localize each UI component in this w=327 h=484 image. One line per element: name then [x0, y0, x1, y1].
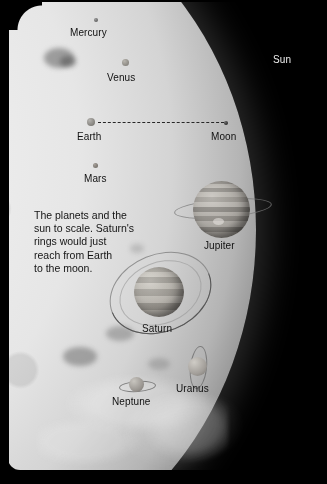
frame-border-top — [0, 0, 327, 2]
planet-mars — [93, 163, 98, 168]
caption-line: sun to scale. Saturn's — [34, 222, 166, 235]
label-sun: Sun — [273, 54, 291, 65]
caption-line: The planets and the — [34, 209, 166, 222]
figure-caption: The planets and the sun to scale. Saturn… — [34, 209, 166, 275]
frame-border-right — [320, 0, 327, 484]
image-frame: Mercury Venus Earth Moon Mars Jupiter Sa… — [8, 0, 320, 470]
caption-line: to the moon. — [34, 262, 166, 275]
label-earth: Earth — [77, 131, 101, 142]
caption-line: rings would just — [34, 235, 166, 248]
moon — [224, 121, 228, 125]
caption-line: reach from Earth — [34, 249, 166, 262]
label-moon: Moon — [211, 131, 236, 142]
label-mars: Mars — [84, 173, 107, 184]
label-mercury: Mercury — [70, 27, 107, 38]
frame-corner-notch — [8, 0, 42, 30]
figure-canvas: Mercury Venus Earth Moon Mars Jupiter Sa… — [0, 0, 327, 484]
label-saturn: Saturn — [142, 323, 172, 334]
label-neptune: Neptune — [112, 396, 151, 407]
label-jupiter: Jupiter — [204, 240, 235, 251]
label-venus: Venus — [107, 72, 135, 83]
planet-mercury — [94, 18, 98, 22]
jupiter-great-spot — [213, 218, 224, 225]
sunspot-group-2 — [60, 56, 76, 67]
frame-border-left — [0, 0, 9, 484]
sunspot-group-4 — [63, 347, 97, 366]
frame-border-bottom — [0, 474, 327, 484]
planet-uranus — [188, 357, 207, 376]
planet-neptune — [129, 377, 144, 392]
planet-venus — [122, 59, 129, 66]
earth-moon-distance-line — [98, 122, 224, 123]
label-uranus: Uranus — [176, 383, 209, 394]
planet-jupiter — [193, 181, 250, 238]
planet-earth — [87, 118, 95, 126]
